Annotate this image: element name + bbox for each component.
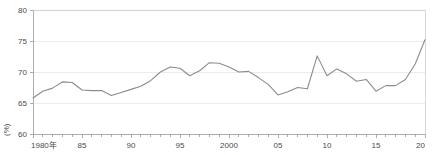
gridlines-group (33, 10, 425, 103)
x-tick-label-2000: 2000 (220, 141, 238, 150)
x-tick-label-1980: 1980年 (31, 140, 57, 150)
y-axis-tick-labels-group: 6065707580 (18, 6, 27, 139)
x-tick-label-2020: 20 (416, 141, 425, 150)
data-line-series-0 (33, 40, 425, 98)
y-tick-label-75: 75 (18, 37, 27, 46)
x-tick-label-2010: 10 (323, 141, 332, 150)
x-tick-label-1990: 90 (127, 141, 136, 150)
y-tick-label-80: 80 (18, 6, 27, 15)
x-tick-label-1985: 85 (78, 141, 87, 150)
data-series-group (33, 40, 425, 98)
y-tick-label-60: 60 (18, 130, 27, 139)
x-tick-label-2015: 15 (372, 141, 381, 150)
x-tick-label-2005: 05 (274, 141, 283, 150)
x-axis-ticks-group (33, 134, 425, 138)
y-tick-label-65: 65 (18, 99, 27, 108)
chart-canvas: 6065707580 1980年859095200005101520 (%) (0, 0, 437, 155)
y-axis-unit-label-group: (%) (2, 123, 11, 136)
y-axis-unit-label: (%) (2, 123, 11, 136)
y-axis-ticks-group (30, 10, 33, 134)
x-axis-tick-labels-group: 1980年859095200005101520 (31, 140, 426, 150)
line-chart-figure: 6065707580 1980年859095200005101520 (%) (0, 0, 437, 155)
x-tick-label-1995: 95 (176, 141, 185, 150)
y-tick-label-70: 70 (18, 68, 27, 77)
